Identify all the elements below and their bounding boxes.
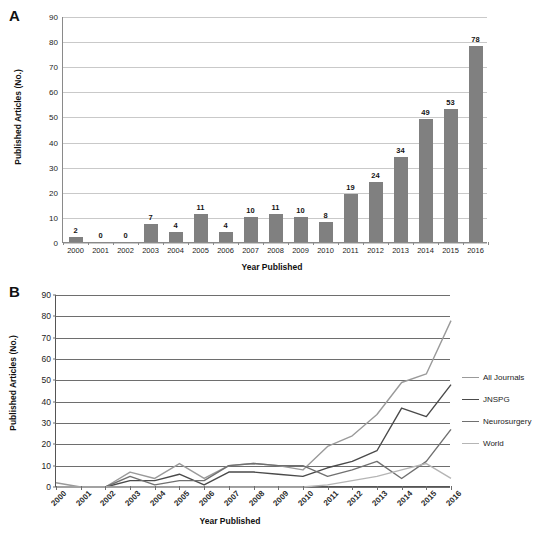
bar xyxy=(244,217,258,242)
bar xyxy=(69,237,83,242)
panel-a-plot-area: 0102030405060708090 20074114101110819243… xyxy=(62,17,487,243)
panel-b-plot-area: 0102030405060708090 20002001200220032004… xyxy=(55,295,450,487)
bar-value-label: 0 xyxy=(98,231,102,240)
x-tick-label: 2010 xyxy=(317,246,334,255)
x-tick-mark xyxy=(254,486,255,490)
x-tick-label: 2015 xyxy=(420,489,439,508)
figure-container: A Published Articles (No.) 0102030405060… xyxy=(0,0,544,538)
bar xyxy=(394,157,408,242)
bar-value-label: 4 xyxy=(173,221,177,230)
bar-value-label: 0 xyxy=(123,231,127,240)
panel-b-series-lines xyxy=(56,295,451,487)
x-tick-mark xyxy=(377,486,378,490)
bar xyxy=(194,214,208,242)
panel-a: A Published Articles (No.) 0102030405060… xyxy=(0,0,544,278)
legend-label: All Journals xyxy=(483,373,524,382)
x-tick-mark xyxy=(263,242,264,245)
bar xyxy=(419,119,433,242)
x-tick-mark xyxy=(63,242,64,245)
x-tick-mark xyxy=(402,486,403,490)
panel-b-y-axis-title: Published Articles (No.) xyxy=(8,318,18,448)
bar xyxy=(269,214,283,242)
x-tick-mark xyxy=(88,242,89,245)
x-tick-mark xyxy=(105,486,106,490)
y-tick-label: 80 xyxy=(49,38,63,47)
bar xyxy=(469,46,483,242)
gridline xyxy=(63,243,487,244)
x-tick-label: 2010 xyxy=(296,489,315,508)
bar xyxy=(144,224,158,242)
x-tick-label: 2016 xyxy=(467,246,484,255)
legend-item[interactable]: World xyxy=(462,432,544,454)
series-line xyxy=(56,321,451,487)
legend-item[interactable]: All Journals xyxy=(462,366,544,388)
gridline xyxy=(63,17,487,18)
bar-value-label: 34 xyxy=(396,146,404,155)
x-tick-label: 2011 xyxy=(342,246,358,255)
x-tick-mark xyxy=(188,242,189,245)
x-tick-mark xyxy=(204,486,205,490)
legend-label: Neurosurgery xyxy=(483,417,531,426)
x-tick-mark xyxy=(56,486,57,490)
panel-b-legend: All JournalsJNSPGNeurosurgeryWorld xyxy=(462,366,544,454)
bar-value-label: 10 xyxy=(246,206,254,215)
bar xyxy=(444,109,458,242)
bar-value-label: 2 xyxy=(73,226,77,235)
x-tick-mark xyxy=(328,486,329,490)
x-tick-label: 2016 xyxy=(444,489,463,508)
x-tick-label: 2002 xyxy=(99,489,118,508)
y-tick-label: 60 xyxy=(49,88,63,97)
bar xyxy=(319,222,333,242)
legend-line-swatch xyxy=(462,377,479,378)
x-tick-mark xyxy=(130,486,131,490)
x-tick-mark xyxy=(163,242,164,245)
x-tick-label: 2014 xyxy=(417,246,434,255)
bar-value-label: 11 xyxy=(197,203,205,212)
panel-a-letter: A xyxy=(9,7,20,24)
x-tick-mark xyxy=(213,242,214,245)
bar-value-label: 49 xyxy=(421,108,429,117)
x-tick-label: 2003 xyxy=(123,489,142,508)
bar-value-label: 7 xyxy=(148,213,152,222)
x-tick-mark xyxy=(413,242,414,245)
x-tick-mark xyxy=(155,486,156,490)
x-tick-mark xyxy=(138,242,139,245)
panel-b: B Published Articles (No.) 0102030405060… xyxy=(0,278,544,538)
x-tick-mark xyxy=(438,242,439,245)
legend-label: JNSPG xyxy=(483,395,510,404)
y-tick-label: 50 xyxy=(49,113,63,122)
x-tick-label: 2013 xyxy=(370,489,389,508)
x-tick-mark xyxy=(463,242,464,245)
x-tick-mark xyxy=(179,486,180,490)
x-tick-mark xyxy=(338,242,339,245)
x-tick-label: 2006 xyxy=(217,246,234,255)
x-tick-label: 2015 xyxy=(442,246,459,255)
y-tick-label: 90 xyxy=(49,13,63,22)
x-tick-mark xyxy=(363,242,364,245)
bar-value-label: 8 xyxy=(323,211,327,220)
legend-item[interactable]: Neurosurgery xyxy=(462,410,544,432)
x-tick-label: 2008 xyxy=(267,246,284,255)
bar-value-label: 19 xyxy=(346,183,354,192)
x-tick-label: 2002 xyxy=(117,246,134,255)
x-tick-mark xyxy=(229,486,230,490)
x-tick-mark xyxy=(451,486,452,490)
gridline xyxy=(63,42,487,43)
x-tick-mark xyxy=(288,242,289,245)
y-tick-label: 20 xyxy=(49,188,63,197)
legend-label: World xyxy=(483,439,504,448)
bar-value-label: 11 xyxy=(272,203,280,212)
y-tick-label: 10 xyxy=(49,213,63,222)
x-tick-label: 2007 xyxy=(222,489,241,508)
x-tick-mark xyxy=(238,242,239,245)
x-tick-mark xyxy=(388,242,389,245)
gridline xyxy=(63,92,487,93)
x-tick-label: 2008 xyxy=(247,489,266,508)
panel-a-x-axis-title: Year Published xyxy=(0,262,544,272)
legend-item[interactable]: JNSPG xyxy=(462,388,544,410)
series-line xyxy=(56,429,451,487)
bar xyxy=(169,232,183,242)
bar-value-label: 78 xyxy=(471,35,479,44)
x-tick-label: 2012 xyxy=(346,489,365,508)
x-tick-label: 2014 xyxy=(395,489,414,508)
